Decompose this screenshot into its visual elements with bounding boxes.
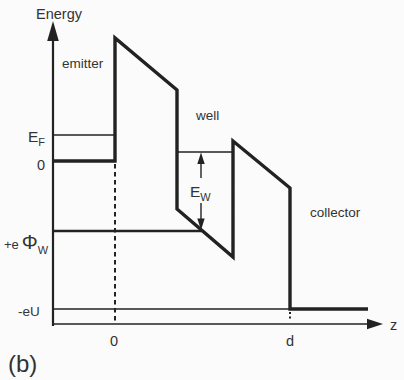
- well-depth-symbol: E: [190, 183, 200, 200]
- z-axis-arrowhead-icon: [367, 319, 383, 329]
- panel-label: (b): [8, 350, 37, 377]
- emitter-region-label: emitter: [62, 56, 104, 71]
- zero-level-label: 0: [37, 157, 45, 173]
- fermi-level-subscript: F: [38, 136, 45, 148]
- well-region-label: well: [195, 108, 219, 123]
- energy-axis-label: Energy: [36, 6, 83, 22]
- phi-symbol: Φ: [22, 231, 38, 253]
- fermi-level-symbol: E: [28, 128, 38, 145]
- bias-level-label: -eU: [18, 304, 40, 319]
- fermi-level-label: EF: [28, 128, 45, 148]
- band-profile-line: [53, 38, 368, 309]
- phi-subscript: W: [38, 244, 49, 256]
- phi-level-label: +eΦW: [4, 231, 49, 256]
- phi-prefix: +e: [4, 237, 19, 252]
- collector-region-label: collector: [310, 205, 361, 220]
- well-depth-subscript: W: [200, 191, 211, 203]
- z-axis-label: z: [390, 317, 397, 333]
- well-depth-label: EW: [190, 183, 211, 203]
- d-tick-label: d: [286, 333, 294, 349]
- energy-band-diagram: Energy z emitter well collector EF 0 EW …: [0, 0, 404, 380]
- origin-tick-label: 0: [110, 333, 118, 349]
- diagram-canvas: Energy z emitter well collector EF 0 EW …: [0, 0, 404, 380]
- energy-axis-arrowhead-icon: [47, 21, 59, 41]
- well-depth-arrow-up-icon: [197, 153, 204, 165]
